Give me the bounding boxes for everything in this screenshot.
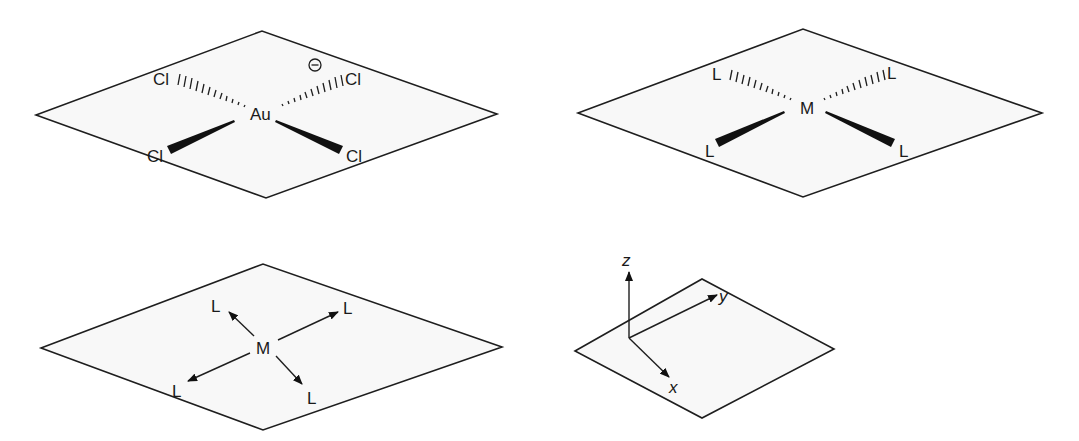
central-atom-m: M [800,99,814,118]
ligand-cl-upper-left: Cl [153,70,169,89]
ligand-l-lower-right: L [899,142,908,161]
ligand-cl-upper-right: Cl [345,70,361,89]
plane-4 [575,279,834,418]
diagram-canvas: Au Cl Cl Cl Cl [0,0,1079,441]
y-axis-label: y [718,287,729,306]
figure-coordinate-axes: z y x [575,251,834,418]
ligand-l-lower-left: L [705,142,714,161]
figure-ml4-stereo: M L L L L [578,29,1042,197]
central-atom-m: M [256,339,270,358]
figure-ml4-arrows: M L L L L [41,264,502,430]
ligand-l-lower-right: L [307,389,316,408]
ligand-l-upper-right: L [887,64,896,83]
ligand-l-upper-left: L [211,297,220,316]
ligand-cl-lower-left: Cl [147,147,163,166]
figure-aucl4-square-planar: Au Cl Cl Cl Cl [36,31,497,198]
ligand-cl-lower-right: Cl [346,147,362,166]
x-axis-label: x [668,378,678,397]
ligand-l-lower-left: L [172,382,181,401]
ligand-l-upper-left: L [712,65,721,84]
z-axis-label: z [621,251,631,270]
central-atom-au: Au [250,105,271,124]
ligand-l-upper-right: L [343,299,352,318]
plane-3 [41,264,502,430]
